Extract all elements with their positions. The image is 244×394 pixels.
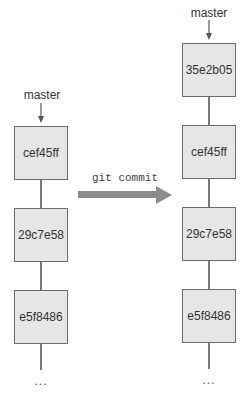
- commit-box: cef45ff: [14, 126, 68, 180]
- commit-box-new: 35e2b05: [182, 43, 236, 97]
- parent-link-line: [208, 261, 210, 289]
- branch-pointer-arrow-icon: [36, 103, 46, 123]
- branch-label-master-before: master: [12, 88, 72, 102]
- commit-box: 29c7e58: [182, 207, 236, 261]
- parent-link-line: [40, 262, 42, 290]
- parent-link-line: [40, 180, 42, 208]
- branch-label-master-after: master: [179, 6, 239, 20]
- parent-link-line: [40, 344, 42, 370]
- parent-link-line: [208, 97, 210, 125]
- commit-box: 29c7e58: [14, 208, 68, 262]
- command-label: git commit: [92, 172, 158, 184]
- commit-box: e5f8486: [14, 290, 68, 344]
- transition-arrow-icon: [78, 186, 172, 204]
- more-commits-ellipsis: ...: [194, 373, 224, 387]
- commit-box: e5f8486: [182, 289, 236, 343]
- parent-link-line: [208, 343, 210, 369]
- branch-pointer-arrow-icon: [204, 20, 214, 40]
- more-commits-ellipsis: ...: [26, 374, 56, 388]
- parent-link-line: [208, 179, 210, 207]
- commit-box: cef45ff: [182, 125, 236, 179]
